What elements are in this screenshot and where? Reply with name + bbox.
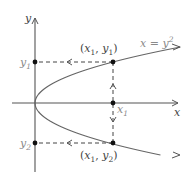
curve-bottom-arrowhead (172, 152, 180, 158)
label-point-x1-y1: (x1, y1) (80, 42, 118, 57)
point-x1 (111, 101, 116, 106)
point-x1-y2 (111, 141, 116, 146)
label-x1: x1 (117, 103, 128, 118)
point-y1 (33, 60, 38, 65)
label-point-x1-y2: (x1, y2) (80, 149, 118, 164)
x-axis-label: x (174, 106, 181, 119)
y-axis-label: y (24, 12, 32, 25)
point-x1-y1 (111, 60, 116, 65)
label-y1: y1 (19, 56, 31, 71)
point-y2 (33, 141, 38, 146)
parabola-curve (35, 47, 181, 155)
parabola-diagram: y x y1 y2 x1 x = y2 (x1, y1) (x1, y2) (0, 0, 191, 183)
curve-top-arrowhead (172, 44, 180, 50)
label-y2: y2 (19, 137, 31, 152)
equation-label: x = y2 (140, 35, 174, 50)
